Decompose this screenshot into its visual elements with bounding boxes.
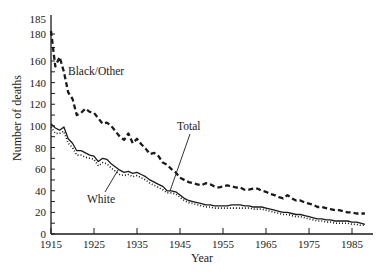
y-axis-title: Number of deaths [10,75,24,161]
annotation-white: White [87,193,115,205]
y-tick-label: 40 [35,185,47,197]
y-tick-label: 140 [30,77,47,89]
annotation-white-leader [105,170,118,192]
line-chart: 020406080100120140160180185 191519251935… [0,0,387,278]
x-tick-label: 1985 [341,238,364,250]
y-tick-label: 160 [30,55,47,67]
x-tick-label: 1935 [126,238,149,250]
x-tick-label: 1965 [255,238,278,250]
y-tick-label: 185 [30,13,47,25]
x-tick-label: 1975 [298,238,321,250]
annotation-total: Total [177,120,200,132]
y-tick-label: 60 [35,163,47,175]
x-ticks: 19151925193519451955196519751985 [40,228,364,250]
y-tick-label: 120 [30,98,47,110]
series-line-white [51,127,365,225]
y-tick-label: 20 [35,206,47,218]
x-tick-label: 1955 [212,238,235,250]
x-tick-label: 1915 [40,238,63,250]
x-tick-label: 1925 [83,238,106,250]
y-tick-label: 80 [35,142,47,154]
x-axis-title: Year [191,251,213,265]
series-line-total [51,124,365,225]
y-tick-label: 180 [30,28,47,40]
series-line-black-other [51,31,365,214]
x-tick-label: 1945 [169,238,192,250]
annotation-black-other: Black/Other [68,65,124,77]
y-tick-label: 100 [30,120,47,132]
